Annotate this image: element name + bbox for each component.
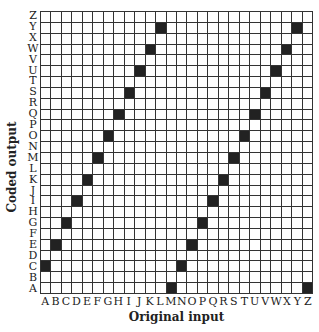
grid-cell — [198, 251, 208, 262]
grid-cell — [292, 283, 302, 294]
grid-cell — [135, 23, 145, 34]
grid-cell — [93, 99, 103, 110]
grid-cell — [303, 110, 313, 121]
mapping-cell-filled — [114, 110, 124, 121]
grid-cell — [271, 110, 281, 121]
grid-cell — [187, 34, 197, 45]
grid-cell — [83, 251, 93, 262]
grid-cell — [240, 153, 250, 164]
grid-cell — [198, 120, 208, 131]
grid-cell — [167, 261, 177, 272]
grid-cell — [41, 55, 51, 66]
grid-cell — [187, 218, 197, 229]
grid-cell — [93, 218, 103, 229]
grid-cell — [261, 229, 271, 240]
x-tick-label: A — [40, 296, 50, 308]
grid-cell — [292, 88, 302, 99]
grid-cell — [135, 218, 145, 229]
grid-cell — [104, 261, 114, 272]
mapping-cell-filled — [93, 153, 103, 164]
grid-cell — [104, 207, 114, 218]
grid-cell — [41, 34, 51, 45]
grid-cell — [303, 131, 313, 142]
grid-cell — [51, 261, 61, 272]
grid-cell — [250, 120, 260, 131]
grid-cell — [93, 251, 103, 262]
grid-cell — [240, 66, 250, 77]
grid-cell — [156, 229, 166, 240]
grid-cell — [208, 261, 218, 272]
grid-cell — [250, 88, 260, 99]
grid-cell — [187, 175, 197, 186]
grid-cell — [219, 12, 229, 23]
grid-cell — [187, 120, 197, 131]
grid-cell — [114, 131, 124, 142]
x-tick-label: Y — [292, 296, 302, 308]
grid-cell — [104, 240, 114, 251]
grid-cell — [146, 110, 156, 121]
grid-cell — [292, 153, 302, 164]
grid-cell — [125, 142, 135, 153]
grid-cell — [240, 175, 250, 186]
grid-cell — [62, 153, 72, 164]
grid-cell — [41, 283, 51, 294]
grid-cell — [292, 218, 302, 229]
grid-cell — [156, 240, 166, 251]
grid-cell — [187, 12, 197, 23]
grid-cell — [83, 34, 93, 45]
grid-cell — [51, 120, 61, 131]
grid-cell — [41, 142, 51, 153]
grid-cell — [271, 55, 281, 66]
grid-cell — [104, 45, 114, 56]
grid-cell — [303, 99, 313, 110]
grid-cell — [167, 99, 177, 110]
grid-cell — [135, 207, 145, 218]
grid-cell — [41, 186, 51, 197]
grid-cell — [261, 218, 271, 229]
mapping-grid — [40, 11, 313, 294]
x-tick-label: G — [103, 296, 113, 308]
grid-cell — [282, 229, 292, 240]
grid-cell — [187, 251, 197, 262]
grid-cell — [198, 153, 208, 164]
grid-cell — [125, 12, 135, 23]
grid-cell — [72, 218, 82, 229]
grid-cell — [156, 251, 166, 262]
grid-cell — [156, 131, 166, 142]
grid-cell — [282, 218, 292, 229]
grid-cell — [62, 272, 72, 283]
grid-cell — [114, 240, 124, 251]
grid-cell — [93, 55, 103, 66]
grid-cell — [250, 207, 260, 218]
grid-cell — [229, 218, 239, 229]
grid-cell — [271, 240, 281, 251]
grid-cell — [114, 251, 124, 262]
grid-cell — [261, 66, 271, 77]
grid-cell — [125, 186, 135, 197]
grid-cell — [303, 186, 313, 197]
grid-cell — [62, 261, 72, 272]
grid-cell — [146, 283, 156, 294]
grid-cell — [51, 272, 61, 283]
grid-cell — [146, 88, 156, 99]
grid-cell — [72, 207, 82, 218]
grid-cell — [250, 99, 260, 110]
grid-cell — [261, 164, 271, 175]
grid-cell — [282, 12, 292, 23]
grid-cell — [292, 164, 302, 175]
grid-cell — [292, 66, 302, 77]
grid-cell — [135, 175, 145, 186]
grid-cell — [135, 272, 145, 283]
grid-cell — [72, 66, 82, 77]
grid-cell — [72, 251, 82, 262]
grid-cell — [41, 272, 51, 283]
grid-cell — [114, 186, 124, 197]
grid-cell — [229, 120, 239, 131]
grid-cell — [135, 99, 145, 110]
grid-cell — [93, 131, 103, 142]
y-axis-ticks: ZYXWVUTSRQPONMLKJIHGFEDCBA — [27, 11, 39, 294]
grid-cell — [271, 142, 281, 153]
grid-cell — [135, 153, 145, 164]
grid-cell — [125, 240, 135, 251]
grid-cell — [156, 283, 166, 294]
